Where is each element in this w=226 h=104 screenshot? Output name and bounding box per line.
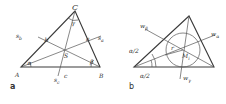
side-label-b: b <box>45 36 49 43</box>
half-angle-label-lower: α/2 <box>140 72 150 79</box>
bisector-w-alpha <box>134 35 215 67</box>
panel-label-a: a <box>10 82 15 91</box>
centroid-label-s: S <box>64 52 68 59</box>
vertex-label-b: B <box>98 72 104 79</box>
angle-label-beta: β <box>89 58 94 66</box>
median-label-s-c: sc <box>54 76 60 85</box>
angle-arc-half-alpha-1 <box>151 60 152 67</box>
figure-a: C γ sb b a sa S α β A c B sc a <box>10 3 104 91</box>
radius-line <box>165 50 183 55</box>
bisector-w-gamma <box>180 16 189 79</box>
median-label-s-a: sa <box>98 34 104 43</box>
median-label-s-b: sb <box>16 32 22 41</box>
figure-b: wβ wα α/2 α/2 r Mi wγ b <box>129 16 219 91</box>
vertex-label-a: A <box>14 71 20 78</box>
side-label-c: c <box>64 72 68 79</box>
bisector-label-w-gamma: wγ <box>183 74 191 83</box>
angle-arc-half-alpha-2 <box>152 54 156 67</box>
triangle-incircle <box>134 16 214 67</box>
triangle-figures: C γ sb b a sa S α β A c B sc a wβ wα α/2… <box>0 0 226 104</box>
bisector-label-w-alpha: wα <box>211 30 219 39</box>
panel-label-b: b <box>129 82 134 91</box>
angle-label-alpha: α <box>28 59 32 66</box>
angle-label-gamma: γ <box>72 19 76 27</box>
bisector-label-w-beta: wβ <box>140 22 148 31</box>
half-angle-label-upper: α/2 <box>129 47 139 54</box>
vertex-label-c: C <box>72 3 78 12</box>
side-label-a: a <box>86 35 90 42</box>
